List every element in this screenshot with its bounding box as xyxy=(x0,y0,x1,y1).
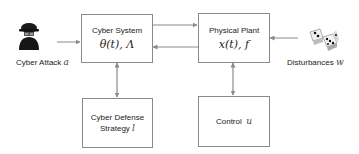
cyber-system-box: Cyber System θ(t), Λ xyxy=(81,14,153,63)
cyber-defense-box: Cyber Defense Strategy l xyxy=(82,98,153,148)
disturbances-var: w xyxy=(336,57,344,67)
physical-plant-math: x(t), f xyxy=(219,38,249,51)
dice-icon xyxy=(306,26,340,52)
control-title: Control u xyxy=(216,116,252,127)
physical-plant-title: Physical Plant xyxy=(209,26,259,36)
cyber-defense-strategy-text: Strategy xyxy=(100,124,130,133)
hacker-icon xyxy=(16,20,42,50)
disturbances-label: Disturbances w xyxy=(287,57,344,67)
connector-layer xyxy=(0,0,359,154)
cyber-attack-label: Cyber Attack a xyxy=(16,57,69,67)
disturbances-text: Disturbances xyxy=(287,58,334,67)
cyber-defense-title-line1: Cyber Defense xyxy=(91,113,144,123)
cyber-attack-text: Cyber Attack xyxy=(16,58,61,67)
control-box: Control u xyxy=(198,96,270,147)
cyber-system-title: Cyber System xyxy=(92,26,142,36)
cyber-system-math: θ(t), Λ xyxy=(100,38,135,51)
cyber-defense-title-line2: Strategy l xyxy=(100,123,135,134)
control-text: Control xyxy=(216,117,242,126)
physical-plant-box: Physical Plant x(t), f xyxy=(198,13,270,63)
control-var: u xyxy=(246,116,252,126)
cyber-defense-var: l xyxy=(132,123,135,133)
cyber-attack-var: a xyxy=(64,57,69,67)
